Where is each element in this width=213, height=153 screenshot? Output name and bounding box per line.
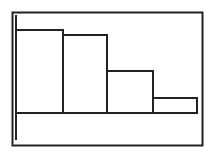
bar-2 (63, 35, 107, 113)
bar-1 (16, 30, 63, 113)
chart-canvas (0, 0, 213, 153)
bar-3 (107, 71, 153, 113)
bar-4 (153, 98, 197, 113)
bar-group (16, 30, 197, 113)
